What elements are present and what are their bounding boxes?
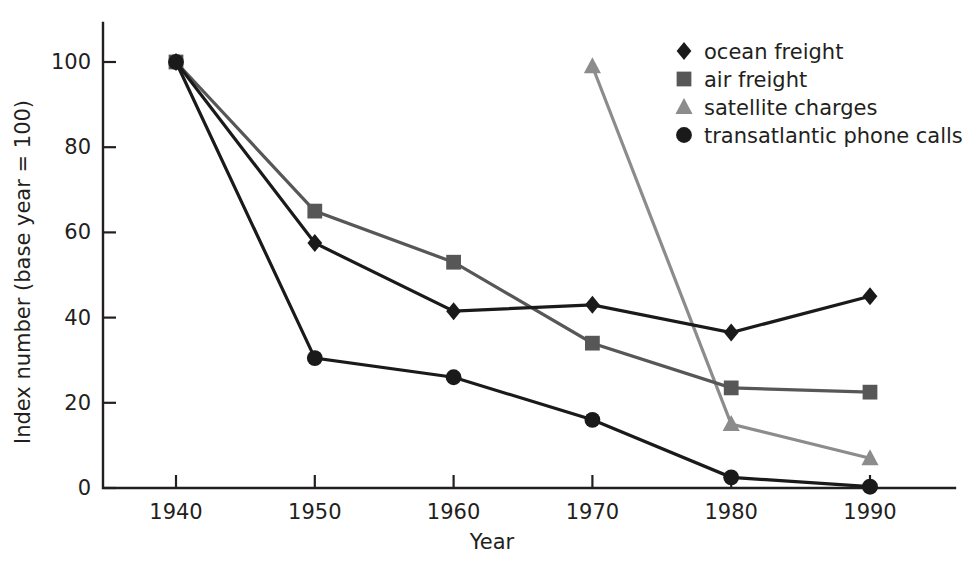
marker-square-air-freight-1960: [446, 255, 461, 270]
marker-circle-transatlantic-phone-calls-1990: [862, 479, 878, 495]
chart-container: 020406080100194019501960197019801990 oce…: [0, 0, 963, 570]
marker-circle-transatlantic-phone-calls-1940: [168, 54, 184, 70]
axis-lines: [103, 23, 955, 488]
marker-square-air-freight-1950: [307, 204, 322, 219]
y-tick-label: 60: [64, 220, 91, 244]
x-tick-label: 1950: [288, 500, 341, 524]
legend-item-air-freight[interactable]: air freight: [677, 68, 808, 92]
legend-label: satellite charges: [704, 96, 877, 120]
marker-square-air-freight-1970: [585, 336, 600, 351]
series-transatlantic-phone-calls: [168, 54, 878, 495]
marker-diamond-ocean-freight-1980: [724, 324, 739, 342]
marker-square-legend-1: [677, 72, 692, 87]
marker-diamond-ocean-freight-1960: [446, 302, 461, 320]
line-chart: 020406080100194019501960197019801990 oce…: [0, 0, 963, 570]
x-tick-label: 1990: [843, 500, 896, 524]
legend-item-satellite-charges[interactable]: satellite charges: [675, 96, 877, 120]
marker-circle-transatlantic-phone-calls-1970: [584, 412, 600, 428]
marker-square-air-freight-1990: [863, 385, 878, 400]
marker-diamond-ocean-freight-1970: [585, 296, 600, 314]
marker-square-air-freight-1980: [724, 381, 739, 396]
x-tick-label: 1960: [427, 500, 480, 524]
y-tick-label: 40: [64, 306, 91, 330]
y-tick-label: 0: [78, 476, 91, 500]
marker-circle-transatlantic-phone-calls-1960: [446, 369, 462, 385]
marker-circle-transatlantic-phone-calls-1980: [723, 469, 739, 485]
y-tick-label: 100: [51, 50, 91, 74]
legend-layer: ocean freightair freightsatellite charge…: [675, 40, 962, 148]
legend-item-ocean-freight[interactable]: ocean freight: [677, 40, 844, 64]
marker-triangle-satellite-charges-1980: [723, 415, 740, 431]
x-tick-label: 1980: [704, 500, 757, 524]
legend-item-transatlantic-phone-calls[interactable]: transatlantic phone calls: [676, 124, 963, 148]
legend-label: ocean freight: [704, 40, 843, 64]
x-axis-title: Year: [469, 530, 515, 554]
x-tick-label: 1970: [566, 500, 619, 524]
marker-circle-transatlantic-phone-calls-1950: [307, 350, 323, 366]
x-tick-label: 1940: [149, 500, 202, 524]
marker-triangle-legend-2: [675, 98, 692, 114]
marker-diamond-legend-0: [677, 42, 692, 60]
marker-circle-legend-3: [676, 127, 692, 143]
legend-label: air freight: [704, 68, 807, 92]
marker-diamond-ocean-freight-1990: [863, 287, 878, 305]
legend-label: transatlantic phone calls: [704, 124, 963, 148]
y-tick-label: 80: [64, 135, 91, 159]
marker-triangle-satellite-charges-1970: [584, 57, 601, 73]
y-axis-title: Index number (base year = 100): [11, 100, 35, 444]
y-tick-label: 20: [64, 391, 91, 415]
